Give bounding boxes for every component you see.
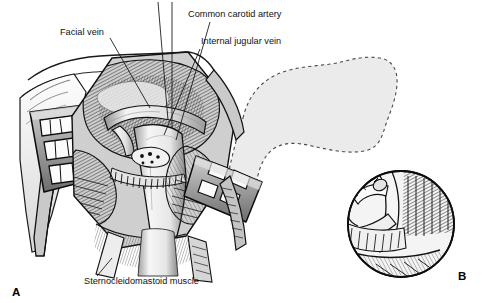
label-common-carotid-artery: Common carotid artery	[188, 9, 282, 19]
panel-letter-b: B	[458, 270, 466, 282]
label-sternocleidomastoid-muscle: Sternocleidomastoid muscle	[84, 276, 199, 286]
anatomical-figure: Facial vein Common carotid artery Intern…	[0, 0, 493, 303]
label-facial-vein: Facial vein	[60, 27, 104, 37]
panel-letter-a: A	[12, 286, 20, 298]
label-internal-jugular-vein: Internal jugular vein	[201, 36, 281, 46]
